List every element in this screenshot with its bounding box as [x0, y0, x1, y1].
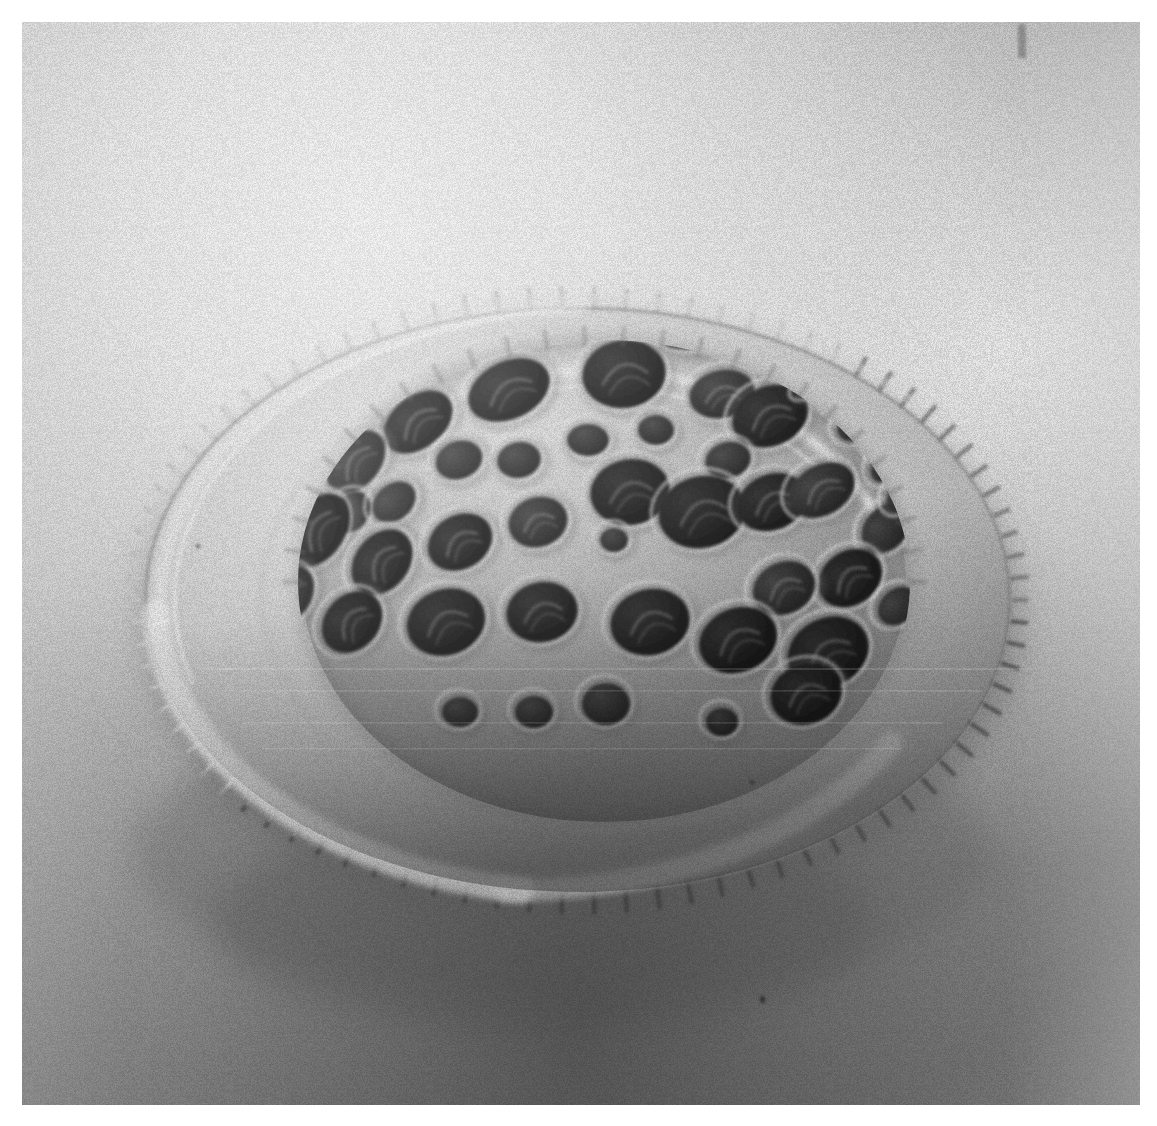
- emulsion-scratch-top-right: [1018, 24, 1026, 58]
- dust-speck-lower-right: [760, 996, 765, 1003]
- micrograph-canvas: [22, 22, 1140, 1105]
- dust-speck-left-flange: [196, 544, 200, 548]
- sem-micrograph-photo: [22, 22, 1140, 1105]
- screenshot-root: [0, 0, 1157, 1126]
- dust-speck-right-flange: [750, 780, 754, 784]
- dome-lower-shade: [302, 342, 906, 822]
